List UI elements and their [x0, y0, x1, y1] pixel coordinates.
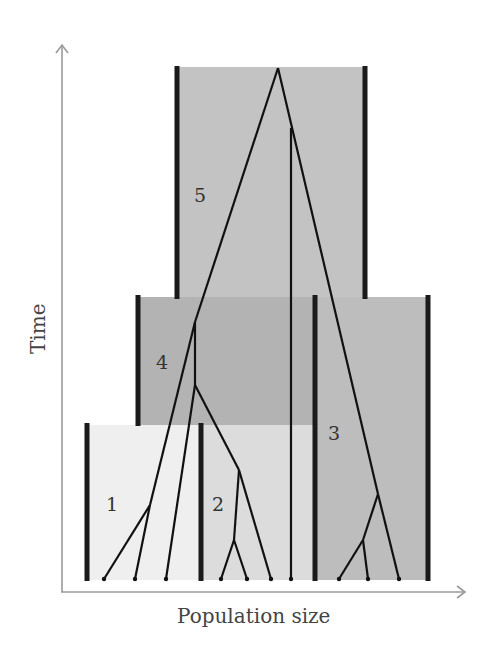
population-tree-diagram: [0, 0, 487, 661]
pop-label-1: 1: [106, 493, 118, 515]
tip-dot: [164, 577, 168, 581]
pop-label-3: 3: [328, 422, 340, 444]
pop-label-4: 4: [156, 351, 168, 373]
tip-dot: [289, 577, 293, 581]
tip-dot: [133, 577, 137, 581]
tip-dot: [366, 577, 370, 581]
tip-dot: [245, 577, 249, 581]
pop-label-2: 2: [212, 493, 224, 515]
y-axis-label: Time: [26, 306, 50, 354]
pop-label-5: 5: [194, 184, 206, 206]
tip-dot: [102, 577, 106, 581]
tip-dot: [337, 577, 341, 581]
pop5-region: [178, 67, 365, 298]
tip-dot: [397, 577, 401, 581]
tip-dot: [219, 577, 223, 581]
tip-dot: [269, 577, 273, 581]
x-axis-label: Population size: [177, 604, 330, 628]
